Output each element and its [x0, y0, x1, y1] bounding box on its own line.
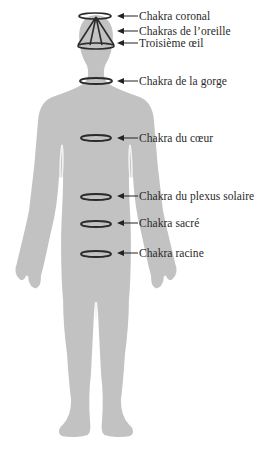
label-root-chakra: Chakra racine: [139, 247, 204, 259]
arrow-icon: [117, 78, 138, 84]
label-crown-chakra: Chakra coronal: [139, 10, 210, 22]
arrow-icon: [117, 13, 138, 19]
label-sacral-chakra: Chakra sacré: [139, 217, 199, 229]
label-solar-plexus-chakra: Chakra du plexus solaire: [139, 190, 254, 202]
arrow-icon: [117, 40, 138, 46]
label-heart-chakra: Chakra du cœur: [139, 132, 213, 144]
arrow-icon: [117, 28, 138, 34]
label-throat-chakra: Chakra de la gorge: [139, 75, 227, 87]
chakra-diagram: [0, 0, 262, 453]
label-ear-chakras: Chakras de l’oreille: [139, 25, 231, 37]
label-third-eye: Troisième œil: [139, 37, 203, 49]
